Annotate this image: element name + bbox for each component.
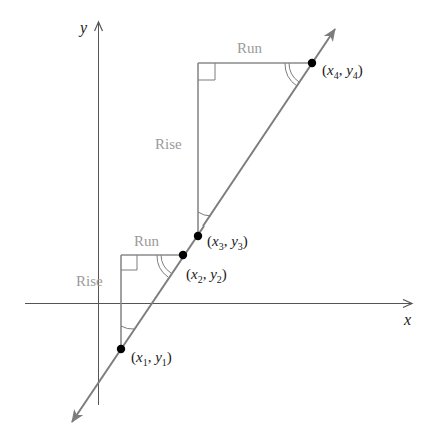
upper-triangle: Run Rise [155, 40, 312, 236]
upper-right-angle-icon [198, 63, 215, 80]
lower-single-arc-icon [121, 326, 134, 329]
x-axis-label: x [403, 311, 411, 328]
point-p2 [179, 251, 187, 259]
point-p3 [194, 232, 202, 240]
point-label-p1: (x1, y1) [131, 349, 172, 368]
upper-run-label: Run [237, 40, 263, 56]
point-p4 [308, 59, 316, 67]
upper-rise-label: Rise [155, 136, 182, 152]
y-axis-label: y [78, 19, 88, 37]
main-line [203, 29, 335, 226]
point-label-p4: (x4, y4) [322, 62, 363, 81]
point-p1 [117, 345, 125, 353]
lower-rise-label: Rise [76, 273, 103, 289]
point-label-p3: (x3, y3) [207, 233, 248, 252]
lower-right-angle-icon [121, 255, 137, 270]
slope-diagram: x y Run Rise Run Rise (x1, y1) (x2, [0, 0, 435, 444]
upper-double-arc-inner-icon [289, 63, 299, 82]
lower-triangle: Run Rise [76, 233, 183, 349]
lower-run-label: Run [134, 233, 160, 249]
upper-double-arc-outer-icon [285, 63, 297, 86]
point-label-p2: (x2, y2) [186, 266, 227, 285]
lower-double-arc-outer-icon [157, 255, 168, 277]
lower-double-arc-inner-icon [161, 255, 171, 273]
